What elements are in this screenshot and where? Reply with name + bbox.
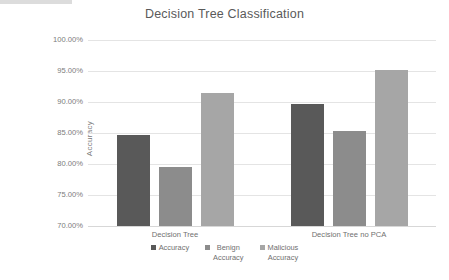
legend-swatch-icon: [260, 245, 265, 250]
x-axis-category-label: Decision Tree no PCA: [262, 230, 436, 239]
y-axis-tick-label: 90.00%: [23, 97, 83, 106]
y-axis-tick-label: 80.00%: [23, 159, 83, 168]
bar: [159, 167, 192, 226]
y-axis-tick-label: 100.00%: [23, 35, 83, 44]
y-axis-tick-label: 95.00%: [23, 66, 83, 75]
bar: [375, 70, 408, 226]
bar: [201, 93, 234, 226]
legend-swatch-icon: [205, 245, 210, 250]
y-axis-tick-label: 75.00%: [23, 190, 83, 199]
bar-chart: Decision Tree Classification Accuracy 10…: [0, 0, 449, 280]
legend-item[interactable]: BenignAccuracy: [205, 243, 243, 263]
legend-item[interactable]: MaliciousAccuracy: [260, 243, 299, 263]
plot-area: Accuracy 100.00%95.00%90.00%85.00%80.00%…: [88, 40, 436, 226]
gridline: [88, 226, 436, 227]
legend-label: Accuracy: [159, 243, 189, 253]
x-axis-category-label: Decision Tree: [88, 230, 262, 239]
legend-item[interactable]: Accuracy: [151, 243, 189, 253]
bar: [117, 135, 150, 226]
legend-label: MaliciousAccuracy: [268, 243, 299, 263]
y-axis-tick-label: 70.00%: [23, 221, 83, 230]
chart-title: Decision Tree Classification: [0, 7, 449, 21]
y-axis-title: Accuracy: [85, 94, 94, 184]
chart-legend: AccuracyBenignAccuracyMaliciousAccuracy: [0, 243, 449, 263]
legend-label: BenignAccuracy: [213, 243, 243, 263]
gridline: [88, 40, 436, 41]
y-axis-tick-label: 85.00%: [23, 128, 83, 137]
bar: [333, 131, 366, 226]
legend-swatch-icon: [151, 245, 156, 250]
bar: [291, 104, 324, 226]
